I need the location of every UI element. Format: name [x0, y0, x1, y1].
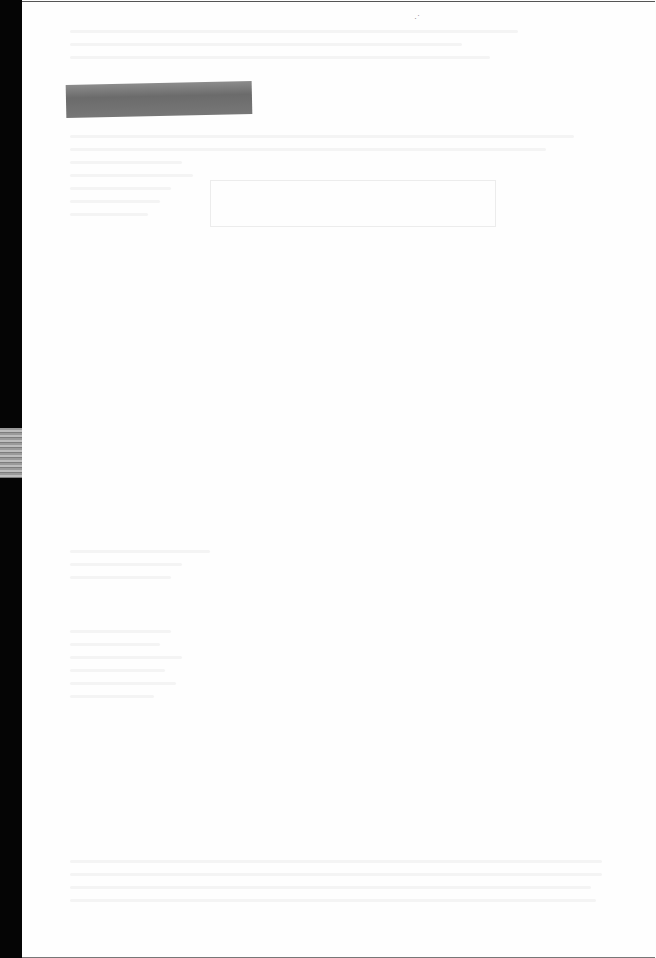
faint-footer-text: [70, 850, 630, 912]
margin-scan-artifact: [0, 428, 22, 478]
tape-label: [66, 81, 253, 118]
faint-header-text: [70, 20, 630, 69]
boxed-region: [210, 180, 496, 227]
scanner-left-margin: [0, 0, 22, 958]
faint-body-text-lower: [70, 620, 630, 708]
faint-body-text-middle: [70, 540, 630, 589]
